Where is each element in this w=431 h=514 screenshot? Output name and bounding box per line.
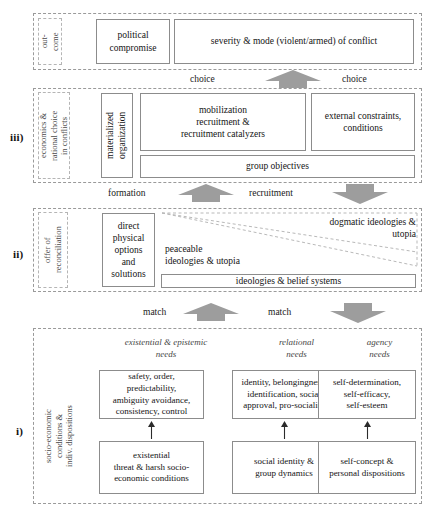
box-political-compromise: politicalcompromise	[96, 19, 170, 64]
tier-numeral-i: i)	[16, 425, 23, 437]
arrow-down-recruitment	[332, 184, 388, 204]
diagram-canvas: iii) ii) i) out-come politicalcompromise…	[0, 0, 431, 514]
box-group-objectives: group objectives	[140, 155, 415, 178]
connector-label-match-right: match	[268, 307, 291, 317]
box-existential-threat: existentialthreat & harsh socio-economic…	[99, 441, 204, 494]
arrow-up-tick-existential	[146, 421, 157, 439]
connector-label-recruitment: recruitment	[249, 188, 293, 198]
tier-numeral-ii: ii)	[13, 248, 23, 260]
connector-label-choice-right: choice	[342, 74, 367, 84]
text-dogmatic-ideologies: dogmatic ideologies &utopia	[300, 216, 416, 241]
header-relational-needs: relationalneeds	[240, 337, 353, 360]
connector-label-match-left: match	[143, 307, 166, 317]
connector-label-choice-left: choice	[190, 74, 215, 84]
box-safety-order: safety, order,predictability,ambiguity a…	[99, 370, 204, 419]
outcome-side-caption: out-come	[38, 18, 62, 65]
tier-numeral-iii: iii)	[10, 131, 24, 143]
economics-side-caption: economics &rational choicein conflicts	[38, 92, 70, 179]
box-mobilization: mobilizationrecruitment &recruitment cat…	[140, 93, 306, 151]
connector-label-formation: formation	[108, 188, 145, 198]
box-ideologies-belief-systems: ideologies & belief systems	[161, 274, 416, 288]
arrow-up-choice	[265, 70, 321, 88]
arrow-down-match	[330, 303, 386, 323]
box-direct-physical-options: directphysicaloptionsandsolutions	[102, 213, 155, 287]
box-materialized-organization: materializedorganization	[101, 93, 133, 178]
box-external-constraints: external constraints,conditions	[311, 93, 415, 151]
box-self-determination: self-determination,self-efficacy,self-es…	[318, 370, 416, 419]
header-existential-epistemic-needs: existential & epistemicneeds	[96, 337, 236, 360]
arrow-up-tick-relational	[279, 421, 290, 439]
arrow-up-formation	[178, 184, 234, 202]
arrow-up-tick-agency	[362, 421, 373, 439]
arrow-up-match	[183, 303, 239, 321]
text-peaceable-ideologies: peaceableideologies & utopia	[165, 243, 285, 268]
header-agency-needs: agencyneeds	[340, 337, 419, 360]
box-severity-mode: severity & mode (violent/armed) of confl…	[174, 19, 414, 64]
box-self-concept: self-concept &personal dispositions	[318, 441, 416, 494]
reconciliation-side-caption: offer ofreconciliation	[38, 212, 68, 288]
socioeconomic-side-caption: socio-economicconditions &indiv. disposi…	[40, 372, 78, 500]
